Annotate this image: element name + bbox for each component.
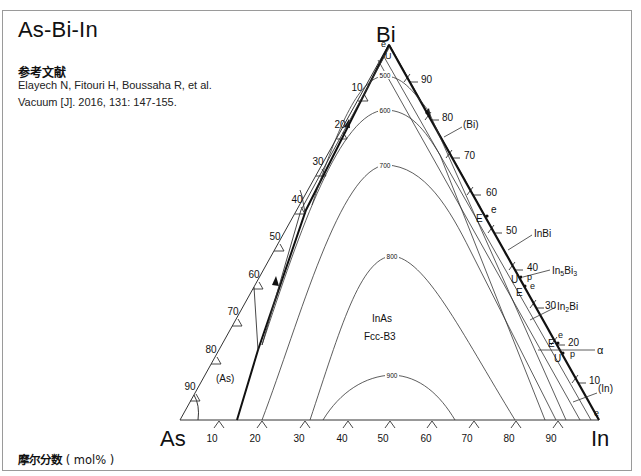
phase-label-in2bi: In2Bi xyxy=(557,301,578,313)
isotherm-label: 600 xyxy=(380,107,391,114)
point-label: U xyxy=(385,51,392,61)
phase-structure-label: Fcc-B3 xyxy=(364,331,396,342)
vertex-label-in: In xyxy=(591,426,609,451)
isotherm-label: 700 xyxy=(380,162,391,169)
point-label: e xyxy=(491,204,497,215)
tick-label: 60 xyxy=(248,269,260,280)
isotherm-label: 800 xyxy=(387,253,398,260)
isotherm-800 xyxy=(310,256,515,420)
phase-label-alpha: α xyxy=(597,344,604,356)
point-label: e xyxy=(530,281,535,291)
arrow-icon xyxy=(272,276,279,286)
vertex-label-bi: Bi xyxy=(376,22,396,47)
tick-label: 50 xyxy=(506,225,518,236)
tick-label: 50 xyxy=(269,231,281,242)
phase-label-bi: (Bi) xyxy=(463,119,479,130)
tick-label: 60 xyxy=(420,433,432,444)
tick-label: 90 xyxy=(184,381,196,392)
isotherm-label: 500 xyxy=(380,72,391,79)
tick-label: 20 xyxy=(568,337,580,348)
point-label: E xyxy=(516,287,523,298)
tick-label: 40 xyxy=(291,194,303,205)
tick-label: 70 xyxy=(227,306,239,317)
tick-label: 40 xyxy=(336,433,348,444)
left-tick-labels: 10 20 30 40 50 60 70 80 90 xyxy=(184,82,363,392)
phase-label-inbi: InBi xyxy=(534,228,551,239)
point-label: E xyxy=(548,338,555,349)
bottom-tick-labels: 10 20 30 40 50 60 70 80 90 xyxy=(206,433,557,444)
angle-mark xyxy=(194,395,199,420)
point-label: U xyxy=(554,353,561,364)
leader-lines xyxy=(444,127,597,402)
tick-label: 90 xyxy=(545,433,557,444)
isotherm-label: 900 xyxy=(387,372,398,379)
isotherm-500 xyxy=(312,76,566,420)
tick-label: 30 xyxy=(293,433,305,444)
isotherm-700-curve xyxy=(262,165,556,420)
right-tick-labels: 90 80 70 60 50 40 30 20 10 xyxy=(421,74,601,386)
point-label: e xyxy=(558,330,563,340)
tick-label: 30 xyxy=(312,156,324,167)
tick-label: 10 xyxy=(206,433,218,444)
phase-label-in5bi3: In5Bi3 xyxy=(552,265,577,277)
bottom-ticks xyxy=(214,421,563,428)
phase-label-in: (In) xyxy=(598,383,613,394)
phase-label-inas: InAs xyxy=(372,313,392,324)
point-label: e xyxy=(594,408,599,418)
tick-label: 70 xyxy=(461,433,473,444)
point-label: E xyxy=(476,213,483,224)
tick-label: 80 xyxy=(205,344,217,355)
tick-label: 50 xyxy=(377,433,389,444)
isotherm-900 xyxy=(323,375,455,420)
tick-label: 60 xyxy=(486,187,498,198)
phase-label-as: (As) xyxy=(216,373,234,384)
isotherms xyxy=(237,76,566,420)
point-label: p xyxy=(570,349,575,359)
tick-label: 80 xyxy=(503,433,515,444)
point-label: U xyxy=(511,274,518,285)
ternary-diagram: 10 20 30 40 50 60 70 80 90 10 20 30 40 5… xyxy=(0,0,641,476)
tick-label: 90 xyxy=(421,74,433,85)
tick-label: 20 xyxy=(249,433,261,444)
vertex-label-as: As xyxy=(160,426,186,451)
tick-label: 80 xyxy=(442,112,454,123)
tick-label: 70 xyxy=(464,150,476,161)
